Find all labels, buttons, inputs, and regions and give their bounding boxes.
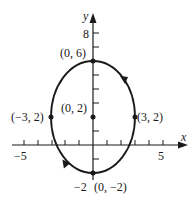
- x-tick-label-5: 5: [158, 149, 164, 163]
- y-axis-label: y: [82, 9, 89, 23]
- ellipse-diagram: x −5 5 y 8 −2 (0, 6) (0, 2) (−3, 2): [0, 0, 196, 201]
- point-left: [49, 115, 54, 120]
- y-tick-label-8: 8: [83, 27, 89, 41]
- x-tick-label-neg5: −5: [14, 149, 27, 163]
- point-bottom: [91, 171, 96, 176]
- point-label-left: (−3, 2): [11, 110, 44, 124]
- point-label-bottom: (0, −2): [94, 180, 127, 194]
- x-axis: x −5 5: [12, 130, 188, 163]
- point-label-top: (0, 6): [60, 46, 86, 60]
- y-axis-arrow-icon: [90, 13, 97, 23]
- x-axis-label: x: [180, 130, 187, 144]
- point-label-right: (3, 2): [137, 110, 163, 124]
- y-tick-label-neg2: −2: [74, 180, 87, 194]
- point-center: [91, 115, 96, 120]
- point-top: [91, 59, 96, 64]
- point-label-center: (0, 2): [61, 101, 87, 115]
